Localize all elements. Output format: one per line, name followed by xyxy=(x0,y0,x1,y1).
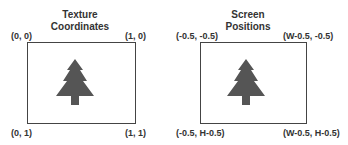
tree-icon xyxy=(221,57,271,109)
label-bottom-left: (-0.5, H-0.5) xyxy=(176,128,225,138)
texture-coordinates-title: Texture Coordinates xyxy=(40,9,120,33)
title-line-1: Texture xyxy=(40,9,120,21)
label-bottom-right: (1, 1) xyxy=(125,128,146,138)
tree-icon xyxy=(50,57,100,109)
label-top-left: (0, 0) xyxy=(11,31,32,41)
title-line-2: Coordinates xyxy=(40,21,120,33)
label-top-right: (1, 0) xyxy=(125,31,146,41)
title-line-1: Screen xyxy=(208,9,288,21)
label-top-right: (W-0.5, -0.5) xyxy=(283,31,333,41)
label-top-left: (-0.5, -0.5) xyxy=(176,31,218,41)
title-line-2: Positions xyxy=(208,21,288,33)
label-bottom-right: (W-0.5, H-0.5) xyxy=(283,128,340,138)
screen-positions-title: Screen Positions xyxy=(208,9,288,33)
label-bottom-left: (0, 1) xyxy=(11,128,32,138)
